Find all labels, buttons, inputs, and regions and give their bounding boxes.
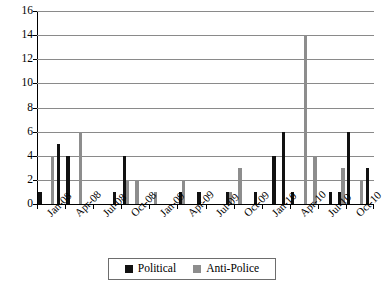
y-axis-tick-label: 4 — [0, 150, 33, 162]
bar-political — [38, 192, 41, 204]
bar-anti-police — [51, 156, 54, 204]
x-axis-labels: Jan-08Apr-08Jul-08Oct-08Jan-09Apr-09Jul-… — [0, 209, 382, 255]
bar-political — [282, 132, 285, 204]
bar-anti-police — [79, 132, 82, 204]
legend-item-anti-police: Anti-Police — [193, 263, 259, 275]
bar-anti-police — [304, 35, 307, 204]
legend-swatch-political-icon — [125, 265, 133, 273]
bar-political — [272, 156, 275, 204]
y-axis-tick-label: 12 — [0, 53, 33, 65]
bar-chart: 0246810121416 Jan-08Apr-08Jul-08Oct-08Ja… — [0, 0, 382, 289]
y-axis-tick-label: 10 — [0, 77, 33, 89]
y-axis-tick-label: 0 — [0, 198, 33, 210]
y-axis-tick-label: 2 — [0, 174, 33, 186]
legend-item-political: Political — [125, 263, 176, 275]
y-axis-tick-label: 14 — [0, 29, 33, 41]
legend-label-political: Political — [138, 263, 176, 275]
chart-legend: Political Anti-Police — [108, 258, 276, 280]
bar-series-group — [37, 11, 374, 204]
plot-area — [37, 11, 374, 204]
y-axis-tick-label: 8 — [0, 102, 33, 114]
y-axis-tick-label: 16 — [0, 5, 33, 17]
y-axis-tick-label: 6 — [0, 126, 33, 138]
legend-swatch-anti-police-icon — [193, 265, 201, 273]
legend-label-anti-police: Anti-Police — [206, 263, 259, 275]
bar-political — [329, 192, 332, 204]
